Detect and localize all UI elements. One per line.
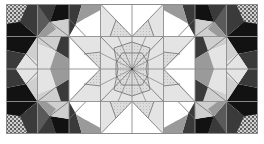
quadrant-bottom-right bbox=[132, 69, 258, 134]
quadrant-top-left bbox=[6, 4, 132, 69]
tiling-pattern bbox=[6, 4, 258, 134]
tiling-svg bbox=[6, 4, 258, 134]
quadrant-top-right bbox=[132, 4, 258, 69]
quadrant-bottom-left bbox=[6, 69, 132, 134]
